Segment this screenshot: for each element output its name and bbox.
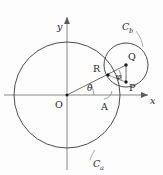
x-axis-arrowhead <box>141 92 148 98</box>
point-r-dot <box>106 73 109 76</box>
point-o-dot <box>66 94 69 97</box>
origin-label: O <box>55 99 63 110</box>
angle-phi-label: φ <box>116 72 122 81</box>
point-q-dot <box>124 63 127 66</box>
geometry-figure: y x O A P Q R θ φ C b C a <box>0 0 163 175</box>
angle-theta-label: θ <box>87 83 93 93</box>
y-axis-label: y <box>56 21 63 32</box>
diagram-canvas: y x O A P Q R θ φ C b C a <box>0 0 163 175</box>
point-p-dot <box>124 80 127 83</box>
x-axis-label: x <box>150 95 156 106</box>
point-a-label: A <box>100 101 108 112</box>
curve-ca-subscript: a <box>100 164 104 172</box>
labels-group: y x O A P Q R θ φ C b C a <box>55 21 156 172</box>
point-q-label: Q <box>128 51 136 62</box>
y-axis-arrowhead <box>64 17 70 24</box>
curve-cb-subscript: b <box>129 27 133 35</box>
point-r-label: R <box>93 63 101 74</box>
leader-cb <box>136 31 143 47</box>
point-p-label: P <box>129 82 136 93</box>
